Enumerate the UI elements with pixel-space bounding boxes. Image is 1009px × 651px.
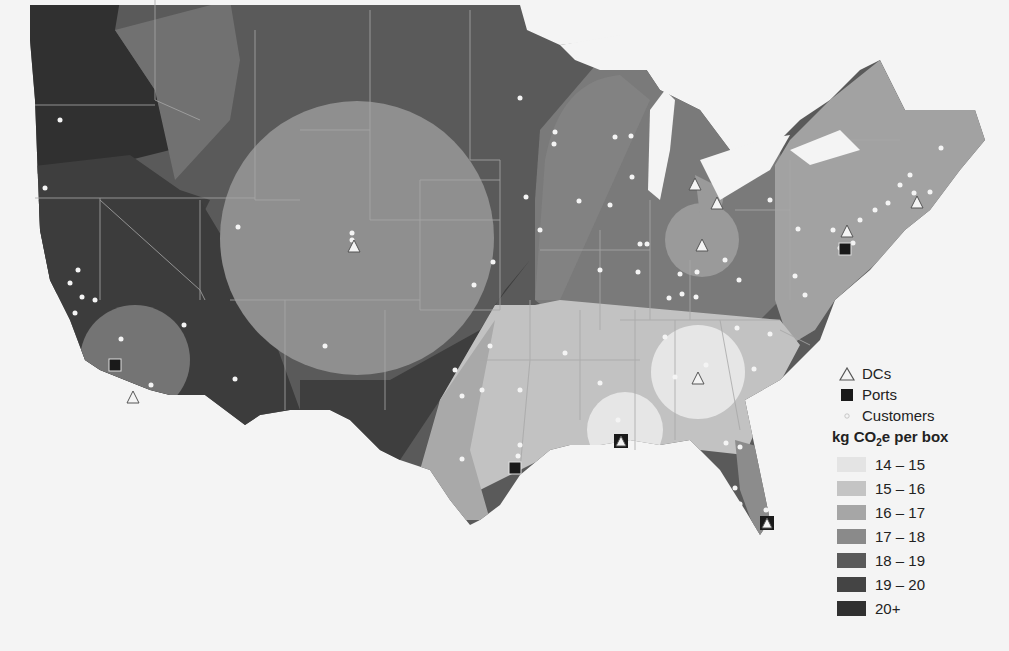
legend-label: Customers xyxy=(862,407,935,424)
dc-socal xyxy=(127,391,139,403)
color-swatch xyxy=(837,457,866,472)
legend-scale-title: kg CO2e per box xyxy=(832,428,1007,448)
legend-item-customers: Customers xyxy=(832,405,1007,426)
legend-bin: 14 – 15 xyxy=(832,452,1007,476)
legend-label: DCs xyxy=(862,365,891,382)
legend-item-dcs: DCs xyxy=(832,363,1007,384)
color-swatch xyxy=(837,529,866,544)
color-swatch xyxy=(837,601,866,616)
color-swatch xyxy=(837,481,866,496)
port-new-york xyxy=(839,243,851,255)
legend-bin: 15 – 16 xyxy=(832,476,1007,500)
legend-bin: 19 – 20 xyxy=(832,572,1007,596)
port-houston xyxy=(509,462,521,474)
color-swatch xyxy=(837,577,866,592)
color-swatch xyxy=(837,505,866,520)
small-dot-icon xyxy=(832,412,862,420)
legend-bins: 14 – 15 15 – 16 16 – 17 17 – 18 18 – 19 … xyxy=(832,452,1007,620)
filled-square-icon xyxy=(832,388,862,402)
legend-bin: 20+ xyxy=(832,596,1007,620)
legend-bin: 17 – 18 xyxy=(832,524,1007,548)
port-los-angeles xyxy=(109,359,121,371)
color-swatch xyxy=(837,553,866,568)
legend-bin: 16 – 17 xyxy=(832,500,1007,524)
triangle-outline-icon xyxy=(832,367,862,381)
legend-label: Ports xyxy=(862,386,897,403)
map-legend: DCs Ports Customers kg CO2e per box 14 –… xyxy=(832,363,1007,620)
legend-item-ports: Ports xyxy=(832,384,1007,405)
legend-bin: 18 – 19 xyxy=(832,548,1007,572)
